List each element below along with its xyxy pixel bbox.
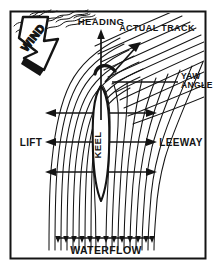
lift-label: LIFT bbox=[20, 137, 43, 148]
leeway-label: LEEWAY bbox=[159, 137, 203, 148]
actual-track-label: ACTUAL TRACK bbox=[119, 23, 195, 33]
keel-label: KEEL bbox=[92, 132, 103, 159]
diagram-canvas: KEEL HEADING ACTUAL TRACK YAW ANGLE LIFT… bbox=[0, 0, 221, 272]
heading-label: HEADING bbox=[78, 16, 125, 27]
keel-flow-diagram: KEEL HEADING ACTUAL TRACK YAW ANGLE LIFT… bbox=[0, 0, 221, 272]
waterflow-label: WATERFLOW bbox=[70, 244, 142, 256]
yaw-angle-label-line2: ANGLE bbox=[181, 80, 213, 90]
